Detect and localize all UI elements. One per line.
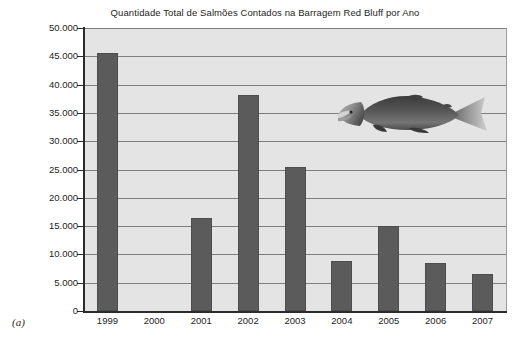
- x-axis-tick-label: 2001: [178, 316, 224, 326]
- y-axis-tick-label: 30.000: [18, 136, 78, 146]
- x-axis-tick-label: 2007: [460, 316, 506, 326]
- y-axis-line: [83, 27, 85, 313]
- bar: [472, 274, 493, 311]
- bar: [97, 53, 118, 311]
- x-axis-line: [83, 311, 507, 313]
- x-axis-tick-label: 2004: [319, 316, 365, 326]
- y-axis-tick-label: 20.000: [18, 193, 78, 203]
- y-axis-tick-label: 5.000: [18, 278, 78, 288]
- x-axis-tick-label: 2000: [131, 316, 177, 326]
- y-axis-tick-label: 0: [18, 306, 78, 316]
- y-axis-tick-label: 40.000: [18, 80, 78, 90]
- y-axis-tick-label: 15.000: [18, 221, 78, 231]
- y-axis-tick-label: 35.000: [18, 108, 78, 118]
- x-axis-tick-label: 2003: [272, 316, 318, 326]
- y-axis-tick-label: 50.000: [18, 23, 78, 33]
- bar: [378, 226, 399, 311]
- y-axis-tick-label: 45.000: [18, 52, 78, 62]
- bars-layer: [84, 28, 506, 311]
- figure-letter: (a): [12, 316, 25, 328]
- y-axis-tick-label: 25.000: [18, 165, 78, 175]
- x-axis-tick-label: 2005: [366, 316, 412, 326]
- bar: [425, 263, 446, 311]
- bar: [331, 261, 352, 311]
- x-axis-tick-label: 2002: [225, 316, 271, 326]
- x-axis-tick-label: 2006: [413, 316, 459, 326]
- bar: [285, 167, 306, 311]
- bar: [191, 218, 212, 311]
- chart-title: Quantidade Total de Salmões Contados na …: [0, 7, 530, 18]
- x-axis-tick-label: 1999: [84, 316, 130, 326]
- y-axis-tick-label: 10.000: [18, 250, 78, 260]
- bar: [238, 95, 259, 311]
